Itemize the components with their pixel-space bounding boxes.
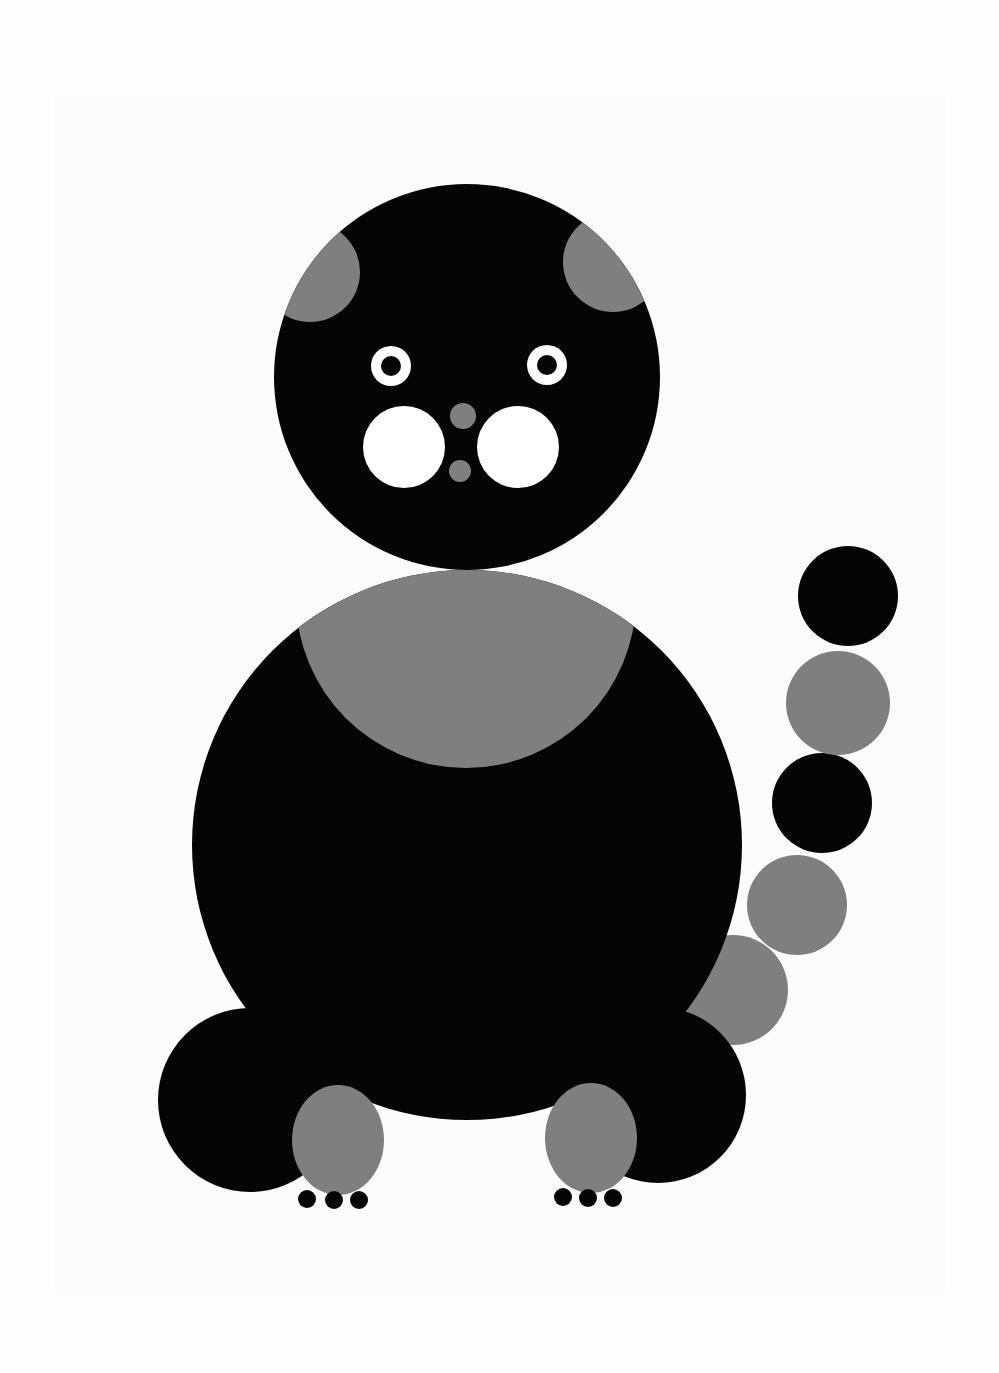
nose-dot xyxy=(450,403,476,429)
left-ear-patch xyxy=(260,222,360,322)
left-eye-pupil xyxy=(381,356,401,376)
toe-3 xyxy=(350,1191,368,1209)
toe-1 xyxy=(298,1190,316,1208)
right-eye-pupil xyxy=(537,355,557,375)
mouth-dot xyxy=(449,460,471,482)
tail-segment-5 xyxy=(798,546,898,646)
tail-segment-2 xyxy=(747,855,847,955)
tail-segment-3 xyxy=(772,753,872,853)
left-cheek xyxy=(363,406,445,488)
tail-segment-4 xyxy=(786,651,890,755)
toe-2 xyxy=(325,1191,343,1209)
right-cheek xyxy=(477,406,559,488)
toe-5 xyxy=(579,1189,597,1207)
left-foot xyxy=(292,1085,384,1195)
cat-illustration xyxy=(0,0,999,1373)
right-ear-patch xyxy=(563,212,663,312)
right-foot xyxy=(545,1083,637,1193)
toe-6 xyxy=(604,1189,622,1207)
toe-4 xyxy=(554,1188,572,1206)
